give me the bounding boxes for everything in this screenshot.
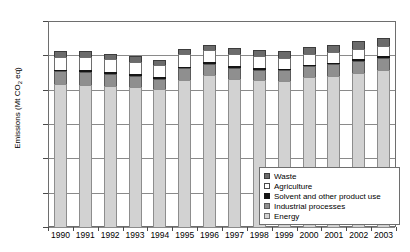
- y-axis-title-subscript: 2: [17, 81, 23, 84]
- bar-segment-agriculture: [104, 59, 117, 72]
- bar-1997[interactable]: [228, 48, 241, 227]
- x-tick-mark: [321, 227, 322, 231]
- legend-label: Solvent and other product use: [274, 192, 381, 201]
- bar-segment-industrial: [54, 71, 67, 83]
- x-tick-mark: [222, 227, 223, 231]
- x-tick-mark: [297, 227, 298, 231]
- legend-swatch-agriculture-icon: [264, 183, 270, 189]
- x-tick-mark: [197, 227, 198, 231]
- bar-segment-agriculture: [129, 62, 142, 74]
- bar-segment-agriculture: [253, 56, 266, 68]
- x-tick-label-2003: 2003: [367, 231, 401, 240]
- legend-item-energy[interactable]: Energy: [264, 211, 395, 221]
- y-axis-title-suffix: eq): [13, 67, 22, 81]
- bar-segment-industrial: [203, 64, 216, 75]
- bar-segment-industrial: [278, 70, 291, 80]
- bar-1992[interactable]: [104, 54, 117, 228]
- x-tick-mark: [147, 227, 148, 231]
- x-tick-mark: [73, 227, 74, 231]
- x-tick-mark: [172, 227, 173, 231]
- bar-1991[interactable]: [79, 51, 92, 227]
- bar-segment-industrial: [228, 68, 241, 79]
- bar-segment-energy: [104, 86, 117, 227]
- bar-segment-waste: [327, 45, 340, 52]
- bar-segment-agriculture: [54, 57, 67, 70]
- bar-segment-agriculture: [352, 49, 365, 60]
- chart-legend: WasteAgricultureSolvent and other produc…: [259, 167, 400, 225]
- bar-segment-agriculture: [228, 54, 241, 66]
- legend-label: Industrial processes: [274, 202, 345, 211]
- legend-item-waste[interactable]: Waste: [264, 171, 395, 181]
- legend-item-industrial[interactable]: Industrial processes: [264, 201, 395, 211]
- legend-swatch-energy-icon: [264, 213, 270, 219]
- x-tick-mark: [48, 227, 49, 231]
- legend-swatch-solvent-icon: [264, 193, 270, 199]
- bar-segment-agriculture: [278, 58, 291, 69]
- bar-segment-agriculture: [327, 52, 340, 63]
- bar-segment-industrial: [327, 64, 340, 75]
- y-axis-title: Emissions (Mt CO2 eq): [13, 23, 23, 193]
- legend-label: Agriculture: [274, 182, 312, 191]
- bar-segment-agriculture: [178, 54, 191, 67]
- x-tick-mark: [247, 227, 248, 231]
- bar-segment-agriculture: [203, 50, 216, 62]
- legend-label: Energy: [274, 212, 299, 221]
- bar-segment-waste: [352, 41, 365, 49]
- bar-segment-industrial: [377, 58, 390, 70]
- bar-1993[interactable]: [129, 56, 142, 227]
- bar-segment-agriculture: [79, 57, 92, 70]
- bar-segment-energy: [203, 75, 216, 227]
- bar-1994[interactable]: [153, 60, 166, 227]
- legend-swatch-industrial-icon: [264, 203, 270, 209]
- bar-1996[interactable]: [203, 45, 216, 227]
- legend-item-solvent[interactable]: Solvent and other product use: [264, 191, 395, 201]
- bar-1995[interactable]: [178, 49, 191, 227]
- legend-label: Waste: [274, 172, 296, 181]
- x-tick-mark: [98, 227, 99, 231]
- bar-segment-energy: [153, 89, 166, 227]
- bar-segment-industrial: [178, 68, 191, 79]
- bar-segment-industrial: [79, 72, 92, 85]
- bar-segment-industrial: [352, 61, 365, 73]
- bar-segment-industrial: [104, 74, 117, 87]
- bar-segment-energy: [79, 85, 92, 227]
- bar-segment-energy: [129, 87, 142, 227]
- bar-segment-agriculture: [303, 54, 316, 65]
- bar-segment-energy: [54, 84, 67, 228]
- legend-item-agriculture[interactable]: Agriculture: [264, 181, 395, 191]
- bar-segment-energy: [178, 80, 191, 227]
- bar-segment-agriculture: [153, 65, 166, 77]
- emissions-stacked-bar-chart: Emissions (Mt CO2 eq) 600.00500.00400.00…: [0, 0, 410, 252]
- bar-segment-energy: [228, 79, 241, 227]
- bar-segment-industrial: [253, 70, 266, 80]
- bar-segment-waste: [377, 38, 390, 46]
- x-tick-mark: [123, 227, 124, 231]
- x-tick-mark: [272, 227, 273, 231]
- bar-segment-agriculture: [377, 46, 390, 57]
- x-tick-mark: [346, 227, 347, 231]
- bar-segment-industrial: [153, 79, 166, 90]
- x-tick-mark: [371, 227, 372, 231]
- bar-segment-industrial: [129, 76, 142, 87]
- bar-segment-industrial: [303, 66, 316, 77]
- legend-swatch-waste-icon: [264, 173, 270, 179]
- bar-segment-waste: [303, 47, 316, 54]
- x-tick-mark: [396, 227, 397, 231]
- bar-1990[interactable]: [54, 51, 67, 227]
- y-axis-title-prefix: Emissions (Mt CO: [13, 84, 22, 148]
